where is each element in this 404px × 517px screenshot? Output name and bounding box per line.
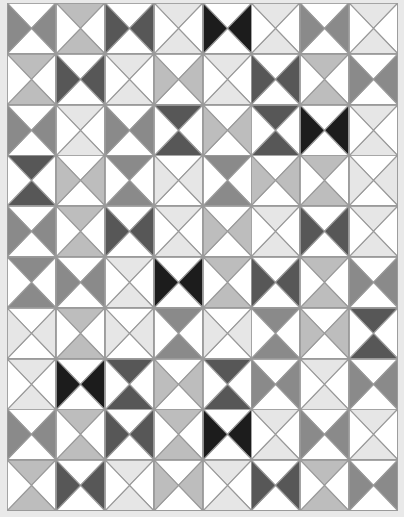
hourglass-block	[203, 3, 252, 54]
hourglass-icon	[56, 257, 105, 308]
hourglass-icon	[154, 359, 203, 410]
hourglass-icon	[154, 105, 203, 156]
hourglass-icon	[7, 54, 56, 105]
hourglass-icon	[203, 155, 252, 206]
hourglass-block	[300, 460, 349, 511]
hourglass-icon	[203, 54, 252, 105]
hourglass-icon	[203, 359, 252, 410]
hourglass-block	[7, 3, 56, 54]
hourglass-block	[203, 206, 252, 257]
hourglass-icon	[105, 155, 154, 206]
hourglass-block	[300, 409, 349, 460]
hourglass-icon	[203, 105, 252, 156]
hourglass-icon	[105, 460, 154, 511]
hourglass-icon	[203, 460, 252, 511]
hourglass-icon	[154, 460, 203, 511]
hourglass-icon	[300, 3, 349, 54]
hourglass-icon	[105, 54, 154, 105]
hourglass-block	[154, 409, 203, 460]
hourglass-icon	[349, 409, 398, 460]
hourglass-icon	[203, 257, 252, 308]
hourglass-block	[251, 155, 300, 206]
hourglass-block	[56, 54, 105, 105]
hourglass-icon	[7, 105, 56, 156]
hourglass-icon	[56, 359, 105, 410]
hourglass-icon	[203, 206, 252, 257]
hourglass-icon	[154, 409, 203, 460]
hourglass-block	[56, 460, 105, 511]
hourglass-block	[203, 308, 252, 359]
hourglass-icon	[349, 359, 398, 410]
hourglass-icon	[203, 308, 252, 359]
hourglass-icon	[7, 3, 56, 54]
hourglass-icon	[154, 3, 203, 54]
hourglass-block	[105, 155, 154, 206]
hourglass-block	[251, 359, 300, 410]
hourglass-icon	[349, 54, 398, 105]
hourglass-block	[251, 206, 300, 257]
hourglass-block	[154, 359, 203, 410]
hourglass-block	[56, 308, 105, 359]
hourglass-block	[56, 359, 105, 410]
hourglass-block	[7, 308, 56, 359]
hourglass-block	[154, 460, 203, 511]
hourglass-icon	[7, 308, 56, 359]
hourglass-block	[154, 206, 203, 257]
hourglass-icon	[56, 206, 105, 257]
hourglass-icon	[251, 3, 300, 54]
hourglass-icon	[7, 359, 56, 410]
hourglass-block	[7, 155, 56, 206]
hourglass-icon	[154, 206, 203, 257]
hourglass-icon	[300, 359, 349, 410]
hourglass-icon	[105, 257, 154, 308]
hourglass-block	[251, 105, 300, 156]
hourglass-block	[105, 257, 154, 308]
hourglass-block	[349, 206, 398, 257]
hourglass-block	[154, 54, 203, 105]
hourglass-block	[349, 359, 398, 410]
hourglass-icon	[56, 409, 105, 460]
hourglass-icon	[300, 308, 349, 359]
hourglass-block	[105, 54, 154, 105]
hourglass-icon	[251, 105, 300, 156]
hourglass-icon	[349, 105, 398, 156]
hourglass-icon	[105, 105, 154, 156]
hourglass-icon	[105, 308, 154, 359]
hourglass-block	[56, 409, 105, 460]
hourglass-icon	[203, 409, 252, 460]
hourglass-icon	[300, 460, 349, 511]
hourglass-block	[56, 257, 105, 308]
hourglass-icon	[154, 155, 203, 206]
hourglass-icon	[251, 460, 300, 511]
hourglass-icon	[56, 155, 105, 206]
hourglass-icon	[251, 308, 300, 359]
hourglass-block	[7, 359, 56, 410]
hourglass-block	[154, 308, 203, 359]
hourglass-icon	[349, 257, 398, 308]
hourglass-icon	[7, 460, 56, 511]
hourglass-block	[7, 206, 56, 257]
hourglass-icon	[251, 206, 300, 257]
hourglass-block	[203, 409, 252, 460]
hourglass-block	[349, 54, 398, 105]
hourglass-block	[154, 257, 203, 308]
hourglass-block	[154, 3, 203, 54]
hourglass-icon	[203, 3, 252, 54]
hourglass-block	[251, 460, 300, 511]
hourglass-icon	[251, 359, 300, 410]
hourglass-block	[105, 206, 154, 257]
hourglass-block	[105, 308, 154, 359]
hourglass-icon	[300, 155, 349, 206]
hourglass-icon	[251, 155, 300, 206]
hourglass-block	[349, 460, 398, 511]
hourglass-icon	[300, 206, 349, 257]
hourglass-icon	[349, 206, 398, 257]
hourglass-block	[349, 257, 398, 308]
hourglass-icon	[7, 257, 56, 308]
quilt-grid	[7, 3, 398, 511]
hourglass-block	[349, 105, 398, 156]
hourglass-block	[300, 105, 349, 156]
hourglass-block	[7, 460, 56, 511]
hourglass-block	[349, 3, 398, 54]
hourglass-block	[105, 409, 154, 460]
